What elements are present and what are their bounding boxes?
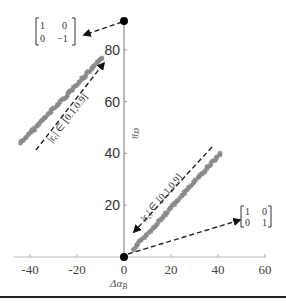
y-tick-label: 80 <box>104 42 120 58</box>
x-tick-label: 20 <box>165 262 178 277</box>
svg-text:0: 0 <box>62 20 67 31</box>
chart: -40-200204060 20406080 |rc| ∈ [0.1,0.9] … <box>0 0 286 306</box>
top-matrix-arrow <box>84 22 122 35</box>
svg-text:1: 1 <box>245 206 250 217</box>
x-axis: -40-200204060 <box>14 254 272 277</box>
right-matrix: 1 0 0 1 <box>241 206 271 228</box>
scatter-point <box>218 151 223 156</box>
svg-text:−1: −1 <box>57 33 68 44</box>
scatter-point <box>99 56 104 61</box>
x-tick-label: 60 <box>259 262 272 277</box>
top-matrix: 1 0 0 −1 <box>36 18 75 45</box>
svg-text:0: 0 <box>262 206 267 217</box>
y-axis-title: αB <box>130 128 144 139</box>
svg-text:1: 1 <box>262 217 267 228</box>
x-tick-label: 0 <box>121 262 128 277</box>
x-tick-label: -20 <box>68 262 85 277</box>
bottom-separator <box>0 296 286 298</box>
x-tick-label: -40 <box>21 262 38 277</box>
svg-text:0: 0 <box>40 33 45 44</box>
y-tick-label: 60 <box>104 94 120 110</box>
svg-text:1: 1 <box>40 20 45 31</box>
origin-reference-dot <box>120 253 128 261</box>
y-tick-label: 20 <box>104 197 120 213</box>
svg-text:0: 0 <box>245 217 250 228</box>
scatter-points <box>18 56 222 253</box>
upper-range-label: |rc| ∈ [0.1,0.9] <box>45 91 91 145</box>
y-tick-label: 40 <box>104 145 120 161</box>
x-axis-title: ΔαB <box>109 277 127 291</box>
top-reference-dot <box>120 17 128 25</box>
x-tick-label: 40 <box>212 262 225 277</box>
y-axis: 20406080 <box>104 21 127 257</box>
